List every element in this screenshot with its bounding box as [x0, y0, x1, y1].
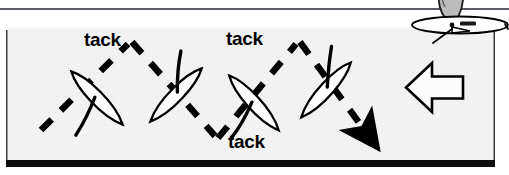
figure-page: tack tack tack: [0, 0, 509, 175]
tack-label-first: tack: [84, 30, 121, 49]
panel-bottom-border: [6, 160, 495, 167]
inset-cockpit: [460, 22, 476, 26]
tack-label-second: tack: [226, 29, 263, 48]
tack-label-third: tack: [228, 132, 265, 151]
